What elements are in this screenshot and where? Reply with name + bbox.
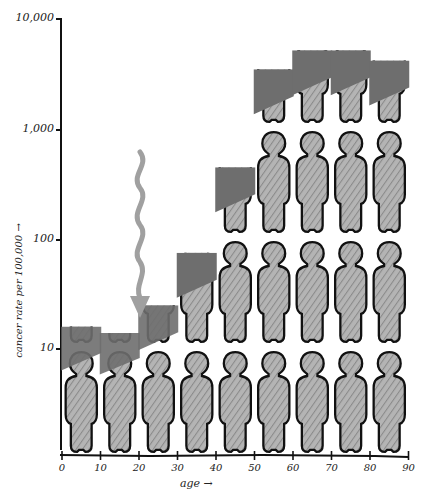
y-axis-title: cancer rate per 100,000 →	[13, 211, 24, 371]
ytick-100: 100	[4, 232, 54, 245]
column-0-10	[61, 242, 101, 452]
ytick-1000: 1,000	[4, 122, 54, 135]
xtick-10: 10	[89, 462, 113, 473]
column-50-60	[254, 22, 294, 452]
xtick-30: 30	[166, 462, 190, 473]
xtick-50: 50	[243, 462, 267, 473]
xtick-90: 90	[397, 462, 421, 473]
xtick-40: 40	[204, 462, 228, 473]
xtick-70: 70	[320, 462, 344, 473]
xtick-60: 60	[281, 462, 305, 473]
wavy-arrow	[137, 152, 143, 298]
x-axis-title: age →	[180, 477, 213, 490]
column-80-90	[369, 22, 409, 452]
xtick-0: 0	[50, 462, 74, 473]
x-axis	[60, 455, 408, 457]
xtick-80: 80	[358, 462, 382, 473]
column-40-50	[215, 132, 255, 452]
ytick-10000: 10,000	[4, 11, 54, 24]
column-60-70	[292, 22, 332, 452]
column-30-40	[177, 242, 217, 452]
cancer-rate-chart: 10,000 1,000 100 10 0102030405060708090 …	[0, 0, 422, 499]
ytick-10: 10	[4, 341, 54, 354]
plot-area	[0, 0, 422, 499]
column-10-20	[100, 242, 140, 452]
xtick-20: 20	[127, 462, 151, 473]
column-70-80	[331, 22, 371, 452]
